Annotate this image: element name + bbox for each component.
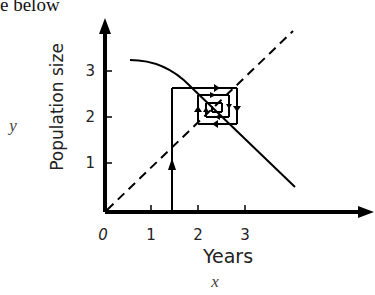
y-tick-label-2: 2 (85, 108, 95, 126)
y-tick-label-3: 3 (85, 62, 95, 80)
cobweb-diagram: 0 1 2 3 1 2 3 Years x Population size y (0, 0, 375, 295)
x-axis (105, 205, 374, 218)
cobweb-path (168, 84, 241, 212)
x-tick-label-1: 1 (146, 226, 156, 244)
origin-label: 0 (98, 226, 108, 244)
x-axis-arrow-icon (358, 206, 374, 218)
x-variable-label: x (210, 272, 219, 291)
x-axis-title: Years (202, 245, 253, 267)
x-tick-label-2: 2 (193, 226, 203, 244)
y-variable-label: y (7, 116, 17, 135)
y-axis-arrow-icon (99, 18, 111, 34)
y-axis (99, 18, 112, 212)
x-tick-label-3: 3 (240, 226, 250, 244)
y-tick-label-1: 1 (85, 154, 95, 172)
y-axis-title: Population size (47, 43, 67, 171)
diagonal-line (107, 31, 293, 210)
